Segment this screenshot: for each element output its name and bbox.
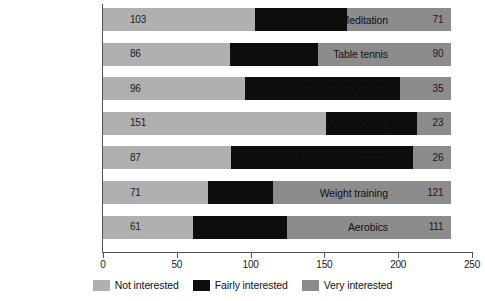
bar-value-label: 35 — [433, 84, 444, 94]
legend-label: Not interested — [115, 279, 179, 291]
x-axis-tick — [472, 253, 473, 258]
category-label-table-tennis: Table tennis — [333, 48, 388, 60]
y-axis-line — [102, 4, 103, 253]
bar-value-label: 87 — [130, 153, 141, 163]
category-label-meditation: Meditation — [341, 14, 388, 26]
bar-segment-not-interested: 71 — [103, 181, 208, 204]
x-axis-tick — [251, 253, 252, 258]
bar-row: 71121 — [103, 181, 472, 204]
category-label-aerobics: Aerobics — [348, 221, 388, 233]
bar-value-label: 121 — [427, 188, 443, 198]
x-axis-line — [103, 252, 473, 253]
bar-value-label: 26 — [433, 153, 444, 163]
x-axis-tick — [324, 253, 325, 258]
bar-segment-not-interested: 87 — [103, 146, 231, 169]
bar-row: 10371 — [103, 8, 472, 31]
bar-segment-not-interested: 86 — [103, 43, 230, 66]
category-label-stress-management: Stress management — [296, 83, 388, 95]
bar-row: 8726 — [103, 146, 472, 169]
bar-segment-fairly-interested — [230, 43, 319, 66]
x-axis-tick-label: 0 — [100, 259, 105, 270]
x-axis-tick-label: 250 — [464, 259, 480, 270]
bar-value-label: 151 — [130, 118, 146, 128]
category-label-weight-loss-control: Weight loss/control — [301, 152, 388, 164]
legend-item-very-interested[interactable]: Very interested — [302, 279, 393, 291]
bar-row: 61111 — [103, 216, 472, 239]
x-axis-tick-label: 150 — [316, 259, 332, 270]
bar-row: 9635 — [103, 77, 472, 100]
bar-segment-fairly-interested — [193, 216, 287, 239]
bar-value-label: 86 — [130, 49, 141, 59]
bar-value-label: 103 — [130, 15, 146, 25]
bar-segment-fairly-interested — [255, 8, 347, 31]
bar-value-label: 111 — [429, 222, 444, 232]
x-axis-tick — [103, 253, 104, 258]
bar-segment-fairly-interested — [208, 181, 273, 204]
x-axis-tick — [177, 253, 178, 258]
bar-value-label: 96 — [130, 84, 141, 94]
legend-item-not-interested[interactable]: Not interested — [93, 279, 179, 291]
bar-value-label: 90 — [433, 49, 444, 59]
legend-swatch-icon — [193, 280, 210, 291]
bar-row: 15123 — [103, 112, 472, 135]
bar-segment-very-interested: 35 — [400, 77, 452, 100]
category-label-weight-training: Weight training — [320, 187, 388, 199]
x-axis-tick-label: 100 — [243, 259, 259, 270]
x-axis-tick-label: 50 — [171, 259, 182, 270]
chart-legend: Not interestedFairly interestedVery inte… — [0, 279, 485, 291]
legend-label: Very interested — [324, 279, 393, 291]
bar-segment-very-interested: 26 — [413, 146, 451, 169]
bar-value-label: 71 — [130, 188, 141, 198]
bar-value-label: 71 — [433, 15, 444, 25]
x-axis-tick-label: 200 — [390, 259, 406, 270]
bar-segment-not-interested: 151 — [103, 112, 326, 135]
legend-swatch-icon — [93, 280, 110, 291]
bar-segment-not-interested: 96 — [103, 77, 245, 100]
category-label-anti-smoking: Anti-smoking — [329, 117, 389, 129]
bar-row: 8690 — [103, 43, 472, 66]
bar-segment-not-interested: 103 — [103, 8, 255, 31]
bar-value-label: 61 — [130, 222, 141, 232]
bar-value-label: 23 — [433, 118, 444, 128]
bar-segment-very-interested: 23 — [417, 112, 451, 135]
legend-item-fairly-interested[interactable]: Fairly interested — [193, 279, 288, 291]
legend-swatch-icon — [302, 280, 319, 291]
x-axis-tick — [398, 253, 399, 258]
stacked-bar-chart: 10371869096351512387267112161111 Meditat… — [0, 0, 485, 301]
bar-segment-not-interested: 61 — [103, 216, 193, 239]
legend-label: Fairly interested — [215, 279, 288, 291]
